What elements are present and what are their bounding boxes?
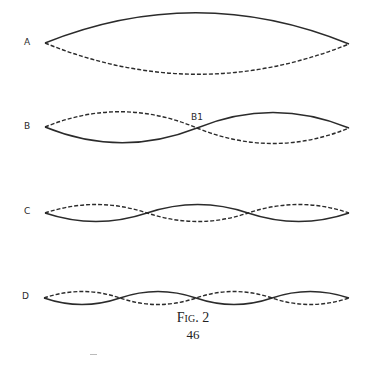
label-c: C — [24, 206, 30, 216]
label-d: D — [22, 291, 29, 301]
wave-d — [44, 292, 349, 305]
label-b1-node: B1 — [191, 112, 203, 122]
wave-c-solid — [45, 205, 349, 222]
wave-c — [45, 205, 349, 222]
wave-d-solid — [44, 292, 349, 305]
wave-a-solid — [45, 13, 349, 44]
wave-c-dashed — [45, 205, 349, 222]
stray-mark — [90, 354, 97, 355]
label-b: B — [24, 121, 30, 131]
page-number: 46 — [0, 327, 370, 343]
wave-a — [45, 13, 349, 75]
figure-caption: Fig. 2 — [0, 310, 370, 326]
wave-a-dashed — [45, 43, 349, 74]
label-a: A — [24, 37, 30, 47]
